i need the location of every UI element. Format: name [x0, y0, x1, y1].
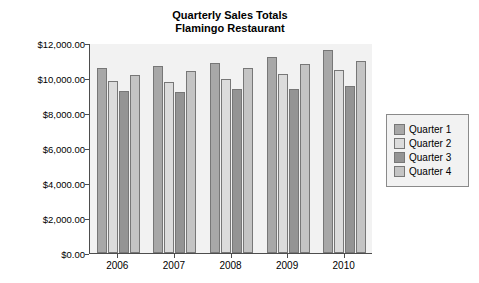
y-axis-tick-mark	[85, 219, 89, 220]
y-axis-tick-label: $10,000.00	[3, 74, 85, 85]
x-axis-tick-mark	[231, 254, 232, 258]
bar	[210, 63, 220, 253]
bar	[323, 50, 333, 253]
bar	[232, 89, 242, 253]
legend-item-label: Quarter 4	[409, 166, 451, 177]
x-axis-tick-mark	[344, 254, 345, 258]
legend-item-label: Quarter 2	[409, 138, 451, 149]
bar	[153, 66, 163, 253]
legend-item-label: Quarter 3	[409, 152, 451, 163]
legend-item[interactable]: Quarter 3	[394, 150, 462, 164]
bar-group	[147, 44, 204, 253]
y-axis-tick-label: $6,000.00	[3, 144, 85, 155]
bar-group	[90, 44, 147, 253]
y-axis-tick-mark	[85, 149, 89, 150]
bar	[243, 68, 253, 254]
x-axis-tick-mark	[174, 254, 175, 258]
bar	[130, 75, 140, 253]
y-axis-tick-label: $0.00	[3, 249, 85, 260]
legend-swatch-icon	[394, 138, 405, 149]
x-axis-tick-mark	[287, 254, 288, 258]
legend-swatch-icon	[394, 152, 405, 163]
bar	[119, 91, 129, 253]
y-axis-tick-mark	[85, 184, 89, 185]
y-axis-tick-label: $4,000.00	[3, 179, 85, 190]
bars-layer	[90, 44, 372, 253]
bar	[289, 89, 299, 254]
bar	[267, 57, 277, 253]
x-axis-tick-mark	[117, 254, 118, 258]
bar	[278, 74, 288, 253]
x-axis-tick-label: 2010	[314, 260, 374, 271]
y-axis-tick-mark	[85, 44, 89, 45]
bar	[334, 70, 344, 253]
y-axis-tick-label: $8,000.00	[3, 109, 85, 120]
y-axis: $0.00$2,000.00$4,000.00$6,000.00$8,000.0…	[0, 44, 85, 254]
legend-item-label: Quarter 1	[409, 124, 451, 135]
bar	[175, 92, 185, 253]
bar	[186, 71, 196, 253]
y-axis-tick-mark	[85, 79, 89, 80]
x-axis-tick-label: 2007	[144, 260, 204, 271]
bar	[345, 86, 355, 253]
y-axis-tick-mark	[85, 114, 89, 115]
y-axis-tick-label: $12,000.00	[3, 39, 85, 50]
legend-swatch-icon	[394, 124, 405, 135]
bar	[97, 68, 107, 254]
legend-item[interactable]: Quarter 1	[394, 122, 462, 136]
bar-group	[316, 44, 373, 253]
bar	[108, 81, 118, 253]
bar	[164, 82, 174, 254]
bar	[300, 64, 310, 253]
chart-title: Quarterly Sales Totals	[85, 9, 375, 22]
chart-legend: Quarter 1Quarter 2Quarter 3Quarter 4	[386, 114, 469, 187]
chart-title-block: Quarterly Sales Totals Flamingo Restaura…	[85, 9, 375, 35]
legend-swatch-icon	[394, 166, 405, 177]
x-axis-tick-label: 2006	[87, 260, 147, 271]
y-axis-tick-mark	[85, 254, 89, 255]
y-axis-tick-label: $2,000.00	[3, 214, 85, 225]
bar	[356, 61, 366, 253]
x-axis-tick-label: 2008	[201, 260, 261, 271]
bar-group	[203, 44, 260, 253]
x-axis-tick-label: 2009	[257, 260, 317, 271]
legend-item[interactable]: Quarter 4	[394, 164, 462, 178]
chart-container: Quarterly Sales Totals Flamingo Restaura…	[0, 0, 479, 283]
legend-item[interactable]: Quarter 2	[394, 136, 462, 150]
chart-subtitle: Flamingo Restaurant	[85, 22, 375, 35]
bar-group	[260, 44, 317, 253]
bar	[221, 79, 231, 253]
plot-area	[89, 44, 372, 254]
